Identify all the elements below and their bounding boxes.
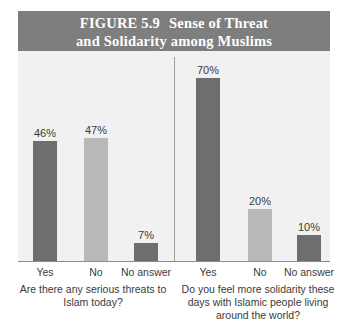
figure-number: FIGURE 5.9: [80, 15, 160, 31]
figure-title-line-2: and Solidarity among Muslims: [76, 32, 272, 50]
group-caption-right: Do you feel more solidarity these days w…: [178, 283, 338, 322]
x-tick-label: Yes: [178, 266, 238, 278]
bar-value-label: 70%: [185, 64, 231, 76]
bar-value-label: 10%: [286, 221, 332, 233]
bar-no-group-2: [248, 209, 272, 261]
figure-title-line-1: FIGURE 5.9Sense of Threat: [80, 14, 268, 32]
bar-no-answer-group-2: [297, 235, 321, 261]
x-tick-label: No answer: [116, 266, 176, 278]
group-caption-left: Are there any serious threats to Islam t…: [14, 283, 172, 309]
figure-title-part-1: Sense of Threat: [169, 15, 268, 31]
bar-value-label: 7%: [123, 229, 169, 241]
x-tick-label: No answer: [279, 266, 339, 278]
bar-no-answer-group-1: [134, 243, 158, 261]
figure-title-banner: FIGURE 5.9Sense of Threat and Solidarity…: [18, 11, 330, 51]
bar-no-group-1: [84, 138, 108, 261]
figure-container: FIGURE 5.9Sense of Threat and Solidarity…: [0, 0, 350, 330]
x-axis-baseline: [18, 261, 330, 262]
group-divider-line: [174, 57, 175, 261]
bar-value-label: 46%: [22, 127, 68, 139]
bar-yes-group-1: [33, 141, 57, 261]
bar-value-label: 20%: [237, 195, 283, 207]
bar-yes-group-2: [196, 78, 220, 261]
bar-value-label: 47%: [73, 124, 119, 136]
